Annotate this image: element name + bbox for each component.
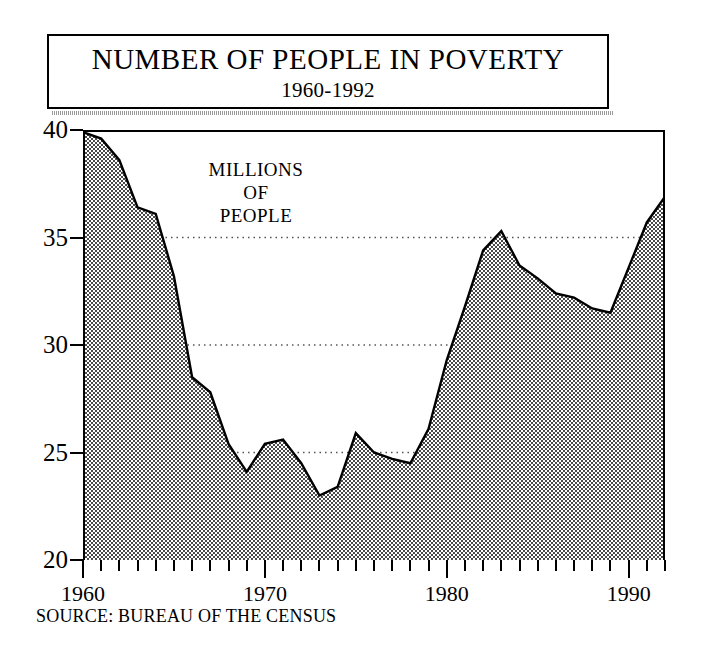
y-tick-label-40: 40 [22,117,68,142]
title-subtitle: 1960-1992 [49,78,607,103]
x-tick-mark-1976 [373,560,375,571]
area-fill [83,132,665,560]
x-tick-mark-1970 [264,560,266,578]
y-axis-labels: 2025303540 [22,130,68,560]
poverty-area-chart [83,130,665,560]
x-tick-mark-1983 [500,560,502,571]
page-title: NUMBER OF PEOPLE IN POVERTY [49,40,607,78]
plot-border-right [663,130,665,560]
chart-title-box: NUMBER OF PEOPLE IN POVERTY 1960-1992 [47,34,609,109]
annotation-line-2: OF [176,181,336,204]
x-tick-mark-1979 [428,560,430,571]
plot-border-top [83,130,665,132]
x-tick-mark-1985 [537,560,539,571]
x-tick-mark-1965 [173,560,175,571]
x-tick-mark-1967 [209,560,211,571]
x-tick-mark-1981 [464,560,466,571]
y-tick-label-20: 20 [22,547,68,572]
x-tick-mark-1982 [482,560,484,571]
y-axis: 2025303540 [22,130,83,560]
x-tick-mark-1988 [591,560,593,571]
x-tick-mark-1963 [137,560,139,571]
chart-annotation: MILLIONS OF PEOPLE [176,158,336,227]
x-tick-mark-1961 [100,560,102,571]
x-tick-mark-1992 [664,560,666,571]
x-tick-mark-1962 [118,560,120,571]
y-tick-mark-35 [70,237,83,239]
x-tick-mark-1987 [573,560,575,571]
annotation-line-1: MILLIONS [176,158,336,181]
x-tick-mark-1978 [409,560,411,571]
y-tick-mark-25 [70,452,83,454]
x-tick-mark-1991 [646,560,648,571]
x-tick-mark-1971 [282,560,284,571]
x-tick-mark-1969 [246,560,248,571]
y-tick-label-30: 30 [22,332,68,357]
x-tick-mark-1973 [318,560,320,571]
x-tick-mark-1975 [355,560,357,571]
x-tick-mark-1968 [228,560,230,571]
source-caption: SOURCE: BUREAU OF THE CENSUS [36,606,336,627]
y-tick-mark-40 [70,129,83,131]
annotation-line-3: PEOPLE [176,204,336,227]
x-tick-mark-1989 [609,560,611,571]
title-box-shadow [52,111,614,115]
x-tick-mark-1986 [555,560,557,571]
x-tick-mark-1974 [337,560,339,571]
x-tick-label-1980: 1980 [425,581,469,607]
x-tick-mark-1990 [628,560,630,578]
x-tick-label-1970: 1970 [243,581,287,607]
y-axis-ticks [70,130,83,560]
x-tick-mark-1980 [446,560,448,578]
y-tick-label-25: 25 [22,440,68,465]
y-tick-mark-30 [70,344,83,346]
plot-area [83,130,665,560]
y-tick-label-35: 35 [22,225,68,250]
x-tick-mark-1977 [391,560,393,571]
x-tick-label-1960: 1960 [61,581,105,607]
x-tick-mark-1984 [519,560,521,571]
x-tick-mark-1960 [82,560,84,578]
x-tick-mark-1964 [155,560,157,571]
x-tick-mark-1966 [191,560,193,571]
x-tick-label-1990: 1990 [607,581,651,607]
x-tick-mark-1972 [300,560,302,571]
plot-border-left [83,130,85,560]
